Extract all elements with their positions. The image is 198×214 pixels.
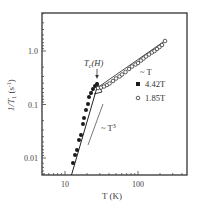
- t3-annotation: ~ T3: [101, 123, 116, 133]
- x-tick-label-10: 10: [61, 180, 69, 189]
- tc-annotation: Tc(H): [84, 58, 103, 69]
- legend-label-4.42T: 4.42T: [145, 79, 166, 89]
- legend-marker-filled: [136, 82, 140, 86]
- legend: 4.42T 1.85T: [136, 79, 166, 103]
- y-tick-label-1: 1.0: [28, 47, 38, 56]
- plot-frame: [42, 13, 187, 175]
- legend-marker-open: [136, 96, 140, 100]
- y-tick-label-0.1: 0.1: [28, 101, 38, 110]
- chart: 1.0 0.1 0.01 10 100 T (K) 1/T1 (s-1) Tc(…: [0, 0, 198, 214]
- linear-t-annotation: ~ T: [140, 67, 153, 77]
- tc-arrow-head: [95, 75, 99, 79]
- x-tick-label-100: 100: [132, 180, 144, 189]
- y-tick-label-0.01: 0.01: [24, 154, 38, 163]
- y-axis-title: 1/T1 (s-1): [6, 79, 17, 111]
- x-axis-title: T (K): [102, 191, 122, 201]
- legend-label-1.85T: 1.85T: [145, 93, 166, 103]
